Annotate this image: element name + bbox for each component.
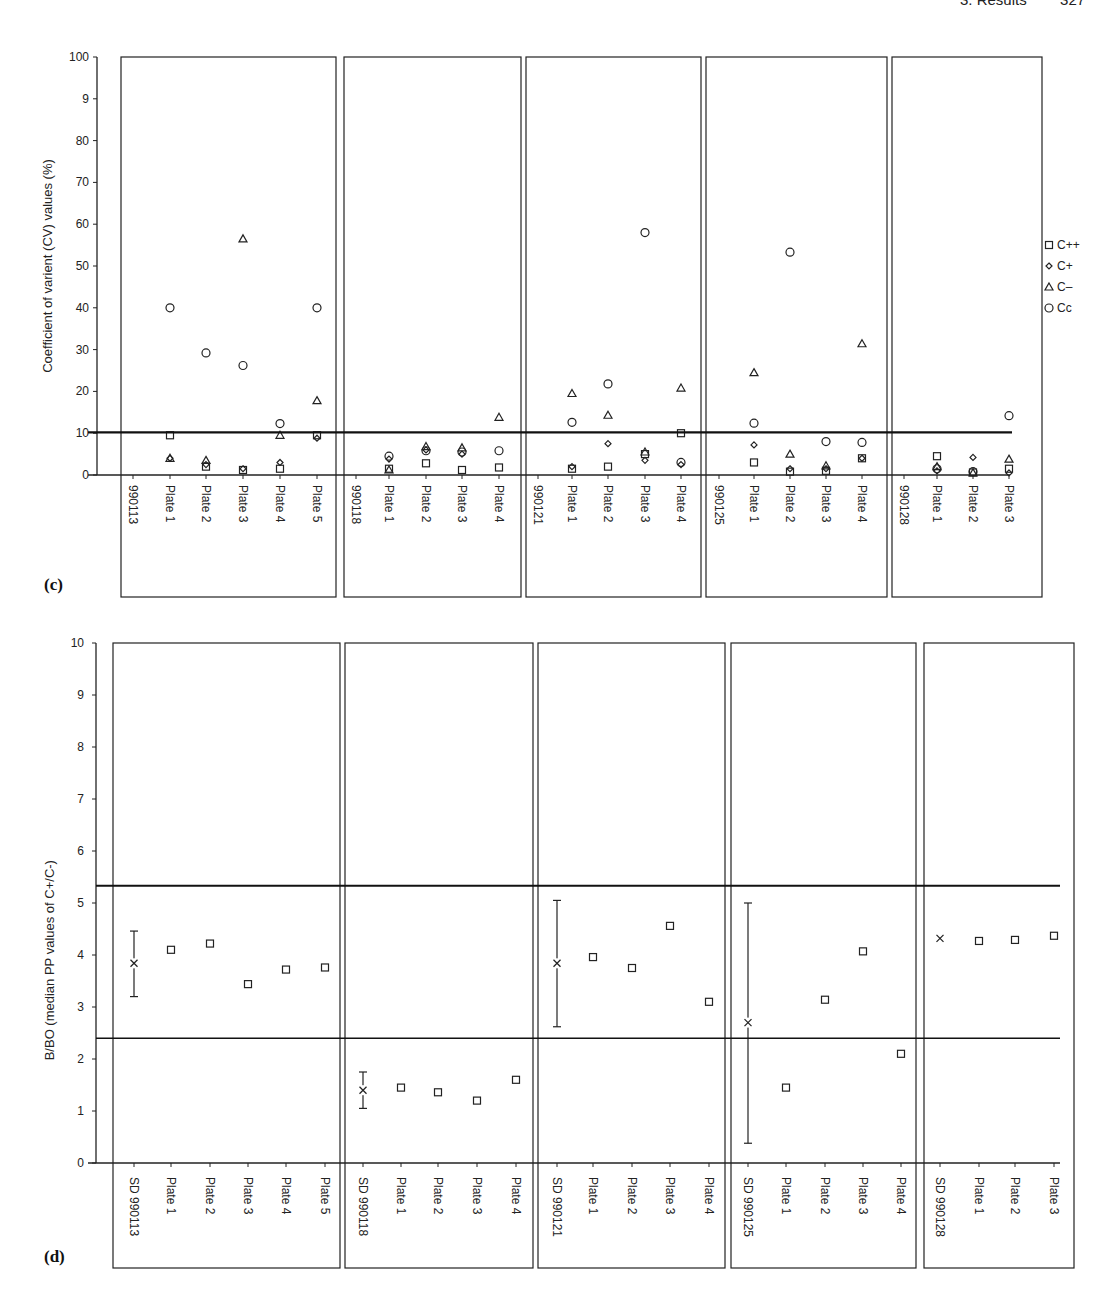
group-990121: SD 990121Plate 1Plate 2Plate 3Plate 4: [538, 643, 725, 1268]
point-plate: [976, 937, 983, 944]
point-Cpp: [423, 460, 430, 467]
x-tick-label: Plate 2: [966, 485, 980, 523]
point-plate: [1051, 932, 1058, 939]
point-Cc: [239, 361, 247, 369]
point-Cc: [495, 447, 503, 455]
group-box: [924, 643, 1074, 1268]
y-tick-label: 6: [77, 844, 84, 858]
point-Cm: [677, 384, 685, 391]
x-tick-label: Plate 2: [601, 485, 615, 523]
group-990113: SD 990113Plate 1Plate 2Plate 3Plate 4Pla…: [113, 643, 340, 1268]
point-Cp: [751, 442, 757, 448]
group-990125: 990125Plate 1Plate 2Plate 3Plate 4: [706, 57, 887, 597]
point-Cp: [970, 454, 976, 460]
point-plate: [398, 1084, 405, 1091]
x-tick-label: SD 990121: [550, 1177, 564, 1237]
x-tick-label: Plate 2: [783, 485, 797, 523]
x-tick-label: Plate 2: [419, 485, 433, 523]
bbo-scatter-chart: 012345678910B/BO (median PP values of C+…: [0, 610, 1116, 1298]
x-tick-label: Plate 3: [663, 1177, 677, 1215]
x-tick-label: Plate 2: [818, 1177, 832, 1215]
x-tick-label: Plate 3: [470, 1177, 484, 1215]
legend-label: C++: [1057, 238, 1080, 252]
x-tick-label: Plate 1: [164, 1177, 178, 1215]
y-tick-label: 80: [76, 134, 90, 148]
y-tick-label: 10: [71, 636, 85, 650]
x-tick-label: Plate 4: [279, 1177, 293, 1215]
sd-error-bar: [552, 900, 562, 1026]
x-tick-label: Plate 2: [431, 1177, 445, 1215]
x-tick-label: 990128: [897, 485, 911, 525]
point-Cc: [750, 419, 758, 427]
point-Cc: [313, 304, 321, 312]
y-tick-label: 30: [76, 343, 90, 357]
x-tick-label: Plate 4: [702, 1177, 716, 1215]
point-Cc: [568, 418, 576, 426]
point-Cm: [786, 450, 794, 457]
point-Cm: [239, 235, 247, 242]
y-tick-label: 0: [77, 1156, 84, 1170]
y-tick-label: 20: [76, 384, 90, 398]
point-plate: [629, 965, 636, 972]
y-tick-label: 8: [77, 740, 84, 754]
point-plate: [706, 998, 713, 1005]
y-tick-label: 1: [77, 1104, 84, 1118]
point-Cpp: [459, 466, 466, 473]
point-Cc: [677, 458, 685, 466]
point-Cp: [569, 464, 575, 470]
point-Cc: [604, 380, 612, 388]
y-tick-label: 2: [77, 1052, 84, 1066]
point-Cpp: [1006, 465, 1013, 472]
y-tick-label: 4: [77, 948, 84, 962]
point-Cc: [458, 448, 466, 456]
legend-marker-Cm: [1045, 283, 1053, 290]
x-tick-label: Plate 3: [1047, 1177, 1061, 1215]
legend-marker-Cp: [1046, 263, 1052, 269]
point-Cp: [605, 441, 611, 447]
point-Cm: [568, 389, 576, 396]
x-tick-label: Plate 4: [855, 485, 869, 523]
x-tick-label: Plate 3: [638, 485, 652, 523]
x-tick-label: Plate 1: [565, 485, 579, 523]
point-Cp: [203, 462, 209, 468]
group-box: [731, 643, 916, 1268]
sd-error-bar: [935, 933, 945, 943]
x-tick-label: 990125: [712, 485, 726, 525]
group-box: [538, 643, 725, 1268]
point-Cp: [859, 455, 865, 461]
x-tick-label: SD 990125: [741, 1177, 755, 1237]
point-Cp: [642, 457, 648, 463]
x-tick-label: Plate 5: [310, 485, 324, 523]
y-tick-label: 40: [76, 301, 90, 315]
x-tick-label: Plate 2: [199, 485, 213, 523]
point-plate: [667, 922, 674, 929]
x-tick-label: Plate 4: [273, 485, 287, 523]
group-990128: SD 990128Plate 1Plate 2Plate 3: [924, 643, 1074, 1268]
y-tick-label: 60: [76, 217, 90, 231]
x-tick-label: Plate 1: [394, 1177, 408, 1215]
point-Cc: [1005, 412, 1013, 420]
point-plate: [860, 948, 867, 955]
group-990118: 990118Plate 1Plate 2Plate 3Plate 4: [344, 57, 521, 597]
y-tick-label: 100: [69, 50, 89, 64]
x-tick-label: 990121: [531, 485, 545, 525]
x-tick-label: Plate 5: [318, 1177, 332, 1215]
x-tick-label: Plate 1: [586, 1177, 600, 1215]
y-tick-label: 70: [76, 175, 90, 189]
point-Cp: [277, 459, 283, 465]
point-Cm: [604, 411, 612, 418]
y-tick-label: 9: [82, 92, 89, 106]
group-box: [121, 57, 336, 597]
x-tick-label: Plate 2: [1008, 1177, 1022, 1215]
x-tick-label: 990118: [349, 485, 363, 524]
point-Cm: [495, 413, 503, 420]
x-tick-label: Plate 3: [236, 485, 250, 523]
group-990128: 990128Plate 1Plate 2Plate 3: [892, 57, 1042, 597]
x-tick-label: Plate 3: [856, 1177, 870, 1215]
x-tick-label: Plate 1: [930, 485, 944, 523]
point-Cpp: [934, 453, 941, 460]
point-Cpp: [496, 464, 503, 471]
x-tick-label: Plate 3: [1002, 485, 1016, 523]
cv-scatter-chart: 010203040506070809100Coefficient of vari…: [0, 0, 1116, 610]
y-tick-label: 10: [76, 426, 90, 440]
